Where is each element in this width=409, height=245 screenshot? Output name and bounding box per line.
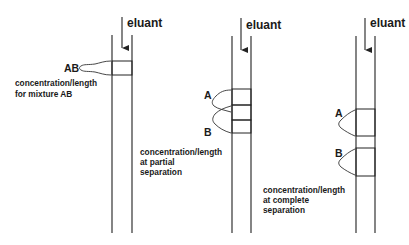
eluant-label: eluant: [127, 16, 162, 30]
chromatography-diagram: eluant AB concentration/length for mixtu…: [0, 0, 409, 245]
column-mixture: eluant AB concentration/length for mixtu…: [15, 16, 162, 233]
band-b: [232, 120, 251, 133]
band-a: [356, 109, 375, 136]
peak-label-a: A: [335, 107, 343, 119]
eluant-label: eluant: [370, 16, 405, 30]
caption-line-1: concentration/length: [15, 78, 97, 88]
caption-line-2: at complete: [263, 195, 309, 205]
eluant-label: eluant: [246, 18, 281, 32]
band-overlap: [232, 105, 251, 120]
peak-curve-ab: [80, 61, 112, 75]
band-b: [356, 148, 375, 176]
caption-line-3: separation: [263, 205, 305, 215]
peak-curve-b: [213, 106, 231, 133]
caption-line-1: concentration/length: [140, 147, 222, 157]
caption-line-3: separation: [140, 167, 182, 177]
peak-label-ab: AB: [64, 62, 80, 74]
peak-label-b: B: [335, 147, 343, 159]
peak-label-a: A: [204, 89, 212, 101]
peak-curve-a: [212, 90, 231, 112]
column-complete: eluant A B concentration/length at compl…: [263, 16, 405, 233]
caption-line-1: concentration/length: [263, 185, 345, 195]
caption-line-2: for mixture AB: [15, 89, 72, 99]
band-a: [232, 89, 251, 105]
caption-line-2: at partial: [140, 157, 175, 167]
band-ab: [112, 61, 132, 75]
peak-label-b: B: [204, 126, 212, 138]
column-partial: eluant A B concentration/length at parti…: [140, 18, 281, 233]
